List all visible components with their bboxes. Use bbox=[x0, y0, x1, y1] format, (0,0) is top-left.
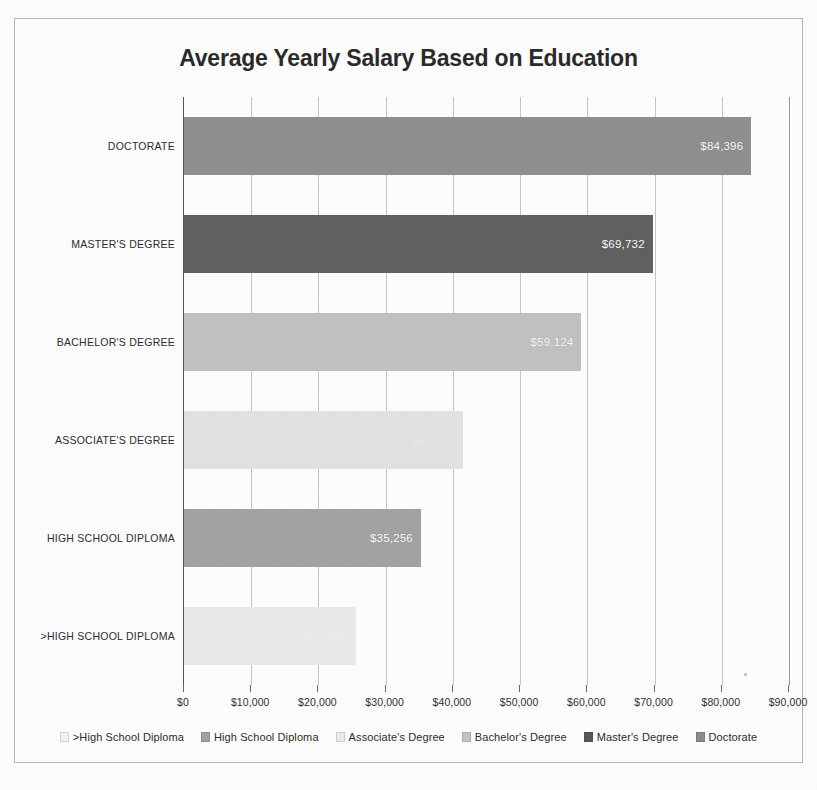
axis-tick-label: $40,000 bbox=[433, 696, 472, 708]
legend-label: Bachelor's Degree bbox=[475, 731, 567, 743]
gridline bbox=[789, 97, 790, 685]
scan-speck bbox=[744, 673, 747, 676]
legend-item[interactable]: High School Diploma bbox=[201, 731, 319, 743]
bar-texture bbox=[184, 313, 581, 372]
axis-tick-label: $30,000 bbox=[365, 696, 404, 708]
category-label: >HIGH SCHOOL DIPLOMA bbox=[41, 630, 175, 642]
axis-tick bbox=[250, 685, 251, 692]
category-label: HIGH SCHOOL DIPLOMA bbox=[47, 532, 175, 544]
chart-frame: Average Yearly Salary Based on Education… bbox=[14, 18, 803, 763]
gridline bbox=[587, 97, 588, 685]
axis-tick bbox=[788, 685, 789, 692]
gridline bbox=[655, 97, 656, 685]
gridline bbox=[722, 97, 723, 685]
axis-tick bbox=[654, 685, 655, 692]
bar[interactable]: $25,636 bbox=[184, 607, 356, 666]
axis-tick bbox=[317, 685, 318, 692]
bar-value-label: $59,124 bbox=[530, 336, 573, 348]
bar-texture bbox=[184, 117, 751, 176]
bar-texture bbox=[184, 215, 653, 274]
legend-item[interactable]: Master's Degree bbox=[584, 731, 679, 743]
category-axis: DOCTORATEMASTER'S DEGREEBACHELOR'S DEGRE… bbox=[31, 97, 183, 685]
category-label: DOCTORATE bbox=[108, 140, 175, 152]
legend-item[interactable]: >High School Diploma bbox=[60, 731, 184, 743]
legend-label: Doctorate bbox=[709, 731, 758, 743]
bar-value-label: $35,256 bbox=[370, 532, 413, 544]
plot-area-wrapper: DOCTORATEMASTER'S DEGREEBACHELOR'S DEGRE… bbox=[31, 97, 788, 697]
axis-tick bbox=[586, 685, 587, 692]
bar-value-label: $84,396 bbox=[700, 140, 743, 152]
plot-area: $84,396$69,732$59,124$41,496$35,256$25,6… bbox=[183, 97, 788, 685]
legend-item[interactable]: Bachelor's Degree bbox=[462, 731, 567, 743]
category-label: BACHELOR'S DEGREE bbox=[57, 336, 175, 348]
legend-swatch-icon bbox=[201, 732, 210, 742]
axis-tick bbox=[519, 685, 520, 692]
axis-tick-label: $70,000 bbox=[634, 696, 673, 708]
legend-swatch-icon bbox=[584, 732, 593, 742]
axis-tick-label: $90,000 bbox=[769, 696, 808, 708]
axis-tick bbox=[183, 685, 184, 692]
gridline bbox=[520, 97, 521, 685]
bar-value-label: $25,636 bbox=[305, 630, 348, 642]
gridline bbox=[386, 97, 387, 685]
legend-item[interactable]: Doctorate bbox=[696, 731, 758, 743]
category-label: ASSOCIATE'S DEGREE bbox=[55, 434, 175, 446]
bar[interactable]: $69,732 bbox=[184, 215, 653, 274]
scanned-page: Average Yearly Salary Based on Education… bbox=[0, 0, 817, 790]
legend-swatch-icon bbox=[696, 732, 705, 742]
gridline bbox=[453, 97, 454, 685]
legend-label: >High School Diploma bbox=[73, 731, 184, 743]
legend-item[interactable]: Associate's Degree bbox=[336, 731, 445, 743]
bar[interactable]: $41,496 bbox=[184, 411, 463, 470]
axis-tick-label: $50,000 bbox=[500, 696, 539, 708]
bar-value-label: $69,732 bbox=[602, 238, 645, 250]
category-label: MASTER'S DEGREE bbox=[71, 238, 175, 250]
chart-title: Average Yearly Salary Based on Education bbox=[15, 45, 802, 72]
legend-swatch-icon bbox=[60, 732, 69, 742]
axis-tick-label: $60,000 bbox=[567, 696, 606, 708]
legend-label: Master's Degree bbox=[597, 731, 679, 743]
axis-tick-label: $20,000 bbox=[298, 696, 337, 708]
value-axis: $0$10,000$20,000$30,000$40,000$50,000$60… bbox=[183, 685, 788, 715]
legend-label: Associate's Degree bbox=[349, 731, 445, 743]
gridline bbox=[318, 97, 319, 685]
axis-tick-label: $0 bbox=[177, 696, 189, 708]
legend-swatch-icon bbox=[336, 732, 345, 742]
axis-tick bbox=[385, 685, 386, 692]
legend-swatch-icon bbox=[462, 732, 471, 742]
chart-legend: >High School DiplomaHigh School DiplomaA… bbox=[15, 731, 802, 743]
axis-tick bbox=[721, 685, 722, 692]
bar[interactable]: $35,256 bbox=[184, 509, 421, 568]
legend-label: High School Diploma bbox=[214, 731, 319, 743]
bar[interactable]: $59,124 bbox=[184, 313, 581, 372]
gridline bbox=[251, 97, 252, 685]
axis-tick-label: $80,000 bbox=[701, 696, 740, 708]
bar-value-label: $41,496 bbox=[412, 434, 455, 446]
axis-tick bbox=[452, 685, 453, 692]
axis-tick-label: $10,000 bbox=[231, 696, 270, 708]
bar[interactable]: $84,396 bbox=[184, 117, 751, 176]
